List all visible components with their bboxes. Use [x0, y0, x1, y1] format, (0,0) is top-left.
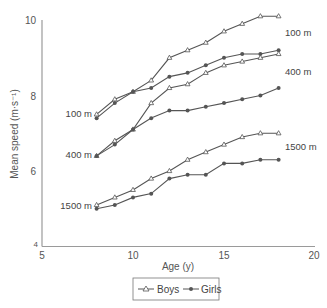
filled-circle-marker-icon	[167, 177, 171, 181]
filled-circle-marker-icon	[167, 109, 171, 113]
filled-circle-marker-icon	[222, 56, 226, 60]
x-tick-15: 15	[218, 250, 230, 261]
series-line	[97, 16, 279, 114]
open-triangle-marker-icon	[276, 51, 281, 55]
series-label-left-100m: 100 m	[66, 108, 92, 119]
filled-circle-marker-icon	[240, 161, 244, 165]
filled-circle-marker-icon	[131, 90, 135, 94]
legend: Boys Girls	[133, 278, 222, 300]
series-layer	[94, 14, 281, 211]
filled-circle-marker-icon	[222, 101, 226, 105]
legend-label-girls: Girls	[201, 284, 222, 295]
filled-circle-marker-icon	[258, 94, 262, 98]
x-tick-10: 10	[127, 250, 139, 261]
x-tick-20: 20	[308, 250, 320, 261]
filled-circle-marker-icon	[149, 192, 153, 196]
x-axis-title: Age (y)	[162, 261, 194, 272]
filled-circle-marker-icon	[149, 86, 153, 90]
filled-circle-marker-icon	[95, 207, 99, 211]
filled-circle-marker-icon	[277, 86, 281, 90]
filled-circle-marker-icon	[258, 158, 262, 162]
filled-circle-marker-icon	[204, 173, 208, 177]
filled-circle-marker-icon	[240, 97, 244, 101]
filled-circle-marker-icon	[204, 105, 208, 109]
series-label-left-400m: 400 m	[66, 149, 92, 160]
y-tick-10: 10	[25, 15, 37, 26]
series-label-right-100m: 100 m	[285, 27, 311, 38]
filled-circle-marker-icon	[131, 127, 135, 131]
filled-circle-marker-icon	[277, 158, 281, 162]
filled-circle-marker-icon	[113, 101, 117, 105]
series-label-right-400m: 400 m	[285, 66, 311, 77]
filled-circle-marker-icon	[186, 173, 190, 177]
filled-circle-marker-icon	[222, 161, 226, 165]
series-label-right-1500m: 1500 m	[285, 141, 317, 152]
series-boys-100-m	[94, 14, 281, 116]
series-line	[97, 54, 279, 156]
series-line	[97, 160, 279, 209]
filled-circle-marker-icon	[204, 63, 208, 67]
filled-circle-marker-icon	[240, 52, 244, 56]
series-line	[97, 133, 279, 205]
y-tick-8: 8	[30, 91, 36, 102]
filled-circle-marker-icon	[189, 287, 193, 291]
series-girls-1500-m	[95, 158, 281, 211]
filled-circle-marker-icon	[131, 195, 135, 199]
filled-circle-marker-icon	[95, 154, 99, 158]
filled-circle-marker-icon	[167, 75, 171, 79]
series-girls-400-m	[95, 86, 281, 158]
filled-circle-marker-icon	[95, 116, 99, 120]
x-tick-5: 5	[39, 250, 45, 261]
y-tick-6: 6	[30, 166, 36, 177]
filled-circle-marker-icon	[113, 203, 117, 207]
x-tick-labels: 5 10 15 20	[39, 250, 320, 261]
filled-circle-marker-icon	[186, 109, 190, 113]
filled-circle-marker-icon	[186, 71, 190, 75]
y-tick-labels: 10 8 6 4	[25, 15, 39, 250]
series-boys-1500-m	[94, 131, 281, 207]
y-tick-4: 4	[34, 240, 39, 249]
y-axis-title: Mean speed (m·s⁻¹)	[9, 89, 20, 178]
line-chart: 10 8 6 4 5 10 15 20 Age (y) Mean speed (…	[0, 0, 327, 308]
filled-circle-marker-icon	[113, 143, 117, 147]
legend-label-boys: Boys	[157, 284, 179, 295]
filled-circle-marker-icon	[149, 116, 153, 120]
series-boys-400-m	[94, 51, 281, 157]
series-line	[97, 88, 279, 156]
series-label-left-1500m: 1500 m	[60, 200, 92, 211]
